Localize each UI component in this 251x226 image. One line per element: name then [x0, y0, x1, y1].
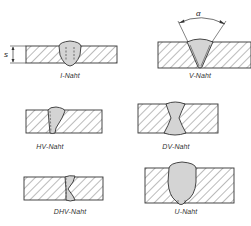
dhv-seam-label: DHV-Naht: [54, 208, 86, 215]
hv-seam-figure: [26, 107, 102, 134]
u-seam-figure: [145, 162, 234, 205]
i-seam-label: I-Naht: [60, 72, 80, 79]
v-seam-figure: [158, 18, 251, 68]
dv-seam-figure: [138, 102, 218, 135]
v-seam-label: V-Naht: [189, 72, 211, 79]
i-seam-figure: [10, 41, 117, 66]
angle-label: α: [196, 9, 201, 18]
thickness-label: s: [4, 50, 8, 59]
weld-seam-diagram: [0, 0, 251, 226]
hv-seam-label: HV-Naht: [36, 143, 63, 150]
dhv-seam-figure: [24, 176, 103, 201]
dv-seam-label: DV-Naht: [162, 143, 189, 150]
thickness-dimension: [10, 46, 26, 63]
u-seam-label: U-Naht: [175, 208, 198, 215]
angle-dimension: [178, 18, 226, 42]
plate: [24, 177, 103, 200]
